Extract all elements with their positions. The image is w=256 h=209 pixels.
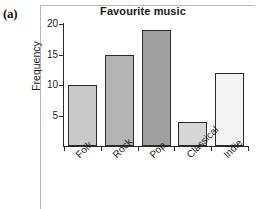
y-tick-mark [59, 85, 64, 86]
x-tick-mark [174, 147, 175, 151]
bar-rock [105, 55, 134, 147]
y-tick-label: 20 [38, 19, 58, 29]
bar-folk [68, 85, 97, 146]
y-tick-label: 15 [38, 50, 58, 60]
plot-area: Frequency 5101520 FolkRockPopClassicalIn… [0, 0, 256, 209]
bar-indie [215, 73, 244, 146]
bar-pop [142, 30, 171, 146]
y-tick-mark [59, 55, 64, 56]
x-tick-mark [211, 147, 212, 151]
x-tick-mark [248, 147, 249, 151]
x-tick-mark [138, 147, 139, 151]
x-tick-mark [101, 147, 102, 151]
y-tick-label: 10 [38, 80, 58, 90]
x-tick-mark [64, 147, 65, 151]
y-tick-label: 5 [38, 111, 58, 121]
y-tick-mark [59, 24, 64, 25]
y-axis-title: Frequency [30, 26, 42, 106]
y-tick-mark [59, 116, 64, 117]
